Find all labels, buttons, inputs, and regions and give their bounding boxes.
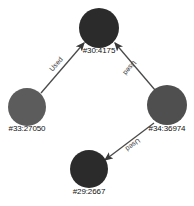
graph-node-30[interactable] <box>79 8 119 48</box>
graph-node-29[interactable] <box>70 150 108 188</box>
graph-node-label-29: #29:2667 <box>0 187 186 196</box>
graph-canvas: #30:4175 #33:27050 #34:36974 #29:2667 Us… <box>0 0 194 206</box>
graph-node-label-34: #34:36974 <box>70 124 194 133</box>
graph-node-33[interactable] <box>8 88 46 126</box>
graph-node-label-30: #30:4175 <box>2 46 194 55</box>
graph-node-34[interactable] <box>147 85 187 125</box>
